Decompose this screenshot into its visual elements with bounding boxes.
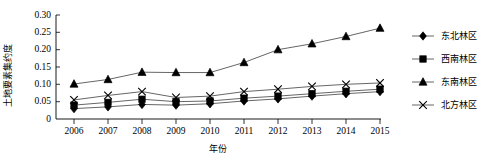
legend-marker-triangle	[419, 78, 427, 86]
series-1	[71, 87, 384, 112]
y-tick-label-0: 0	[46, 114, 51, 124]
y-tick-label-0.10: 0.10	[34, 79, 51, 89]
data-point-square-2008	[139, 96, 145, 102]
series-4	[70, 79, 384, 104]
y-tick-label-0.15: 0.15	[34, 62, 51, 72]
series-2	[71, 86, 383, 108]
legend-marker-square	[420, 56, 426, 62]
y-axis-title-group: 土地要素集约度	[2, 44, 13, 107]
x-tick-label-2010: 2010	[201, 126, 220, 136]
series-line-4	[74, 83, 380, 100]
data-point-triangle-2009	[172, 68, 180, 76]
y-tick-label-0.05: 0.05	[34, 96, 51, 106]
x-tick-label-2008: 2008	[133, 126, 152, 136]
legend-label-1: 东北林区	[441, 30, 477, 41]
legend-label-3: 东南林区	[441, 76, 477, 87]
series-3	[70, 24, 384, 87]
series-line-3	[74, 28, 380, 84]
x-tick-label-2006: 2006	[65, 126, 84, 136]
x-tick-label-2015: 2015	[371, 126, 390, 136]
legend-label-4: 北方林区	[441, 99, 477, 110]
x-tick-label-2009: 2009	[167, 126, 186, 136]
legend-item-3[interactable]: 东南林区	[412, 76, 477, 87]
data-point-square-2015	[377, 86, 383, 92]
y-axis-title: 土地要素集约度	[2, 44, 13, 107]
chart-legend: 东北林区西南林区东南林区北方林区	[412, 30, 477, 110]
legend-item-2[interactable]: 西南林区	[412, 53, 477, 64]
x-tick-label-2007: 2007	[99, 126, 118, 136]
data-point-square-2012	[275, 93, 281, 99]
x-axis-title: 年份	[209, 143, 227, 154]
legend-item-1[interactable]: 东北林区	[412, 30, 477, 41]
legend-item-4[interactable]: 北方林区	[412, 99, 477, 110]
x-tick-label-2013: 2013	[303, 126, 322, 136]
series-layer	[70, 24, 384, 113]
y-tick-label-0.25: 0.25	[34, 27, 51, 37]
legend-marker-diamond	[420, 32, 427, 40]
data-point-square-2007	[105, 99, 111, 105]
y-axis-tick-labels: 0.30 0.25 0.20 0.15 0.10 0.05 0	[34, 10, 51, 124]
data-point-triangle-2015	[376, 24, 384, 32]
data-point-triangle-2008	[138, 68, 146, 76]
data-point-square-2014	[343, 88, 349, 94]
x-axis-tick-labels: 2006 2007 2008 2009 2010 2011 2012 2013 …	[65, 126, 390, 136]
data-point-triangle-2011	[240, 58, 248, 66]
chart-canvas: 土地要素集约度 0.30 0.25 0.20 0.15 0.10 0.05 0	[0, 0, 493, 163]
data-point-square-2013	[309, 90, 315, 96]
y-tick-label-0.20: 0.20	[34, 44, 51, 54]
legend-label-2: 西南林区	[441, 53, 477, 64]
data-point-square-2011	[241, 95, 247, 101]
y-tick-label-0.30: 0.30	[34, 10, 51, 20]
x-tick-label-2011: 2011	[235, 126, 254, 136]
x-tick-label-2012: 2012	[269, 126, 288, 136]
line-chart: 土地要素集约度 0.30 0.25 0.20 0.15 0.10 0.05 0	[0, 0, 493, 163]
x-tick-label-2014: 2014	[337, 126, 356, 136]
axes	[56, 15, 381, 124]
